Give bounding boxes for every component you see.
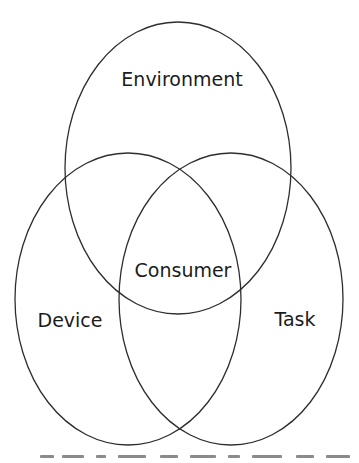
- task-ellipse: [119, 153, 343, 445]
- device-label: Device: [38, 309, 103, 331]
- task-label: Task: [273, 308, 315, 330]
- cropped-caption-text: [0, 455, 359, 463]
- environment-label: Environment: [121, 68, 242, 90]
- venn-diagram: Environment Device Task Consumer: [0, 0, 359, 463]
- consumer-intersection-label: Consumer: [135, 259, 232, 281]
